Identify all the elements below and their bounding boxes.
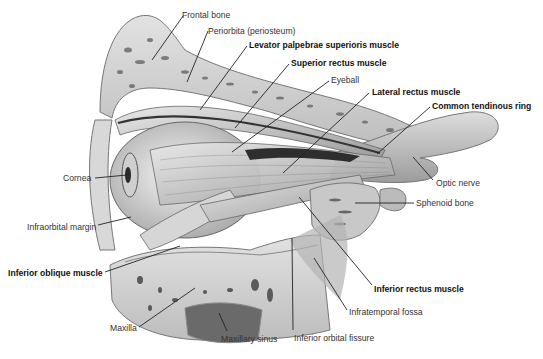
label-infratemporal-fossa: Infratemporal fossa <box>349 307 423 317</box>
label-common-tendinous-ring: Common tendinous ring <box>432 101 531 111</box>
label-lateral-rectus: Lateral rectus muscle <box>372 87 460 97</box>
label-maxillary-sinus: Maxillary sinus <box>221 334 277 344</box>
label-maxilla: Maxilla <box>110 323 137 333</box>
label-frontal-bone: Frontal bone <box>182 10 230 20</box>
label-levator: Levator palpebrae superioris muscle <box>249 40 399 50</box>
label-infraorbital-margin: Infraorbital margin <box>27 222 96 232</box>
label-eyeball: Eyeball <box>331 75 359 85</box>
anatomy-figure: Frontal bonePeriorbita (periosteum)Levat… <box>0 0 543 359</box>
label-optic-nerve: Optic nerve <box>436 178 480 188</box>
label-inferior-orbital-fissure: Inferior orbital fissure <box>294 333 374 343</box>
label-superior-rectus: Superior rectus muscle <box>291 58 387 68</box>
label-cornea: Cornea <box>63 173 91 183</box>
label-periorbita: Periorbita (periosteum) <box>208 26 295 36</box>
label-sphenoid-bone: Sphenoid bone <box>416 198 474 208</box>
label-inferior-rectus: Inferior rectus muscle <box>374 284 464 294</box>
label-inferior-oblique: Inferior oblique muscle <box>8 268 103 278</box>
